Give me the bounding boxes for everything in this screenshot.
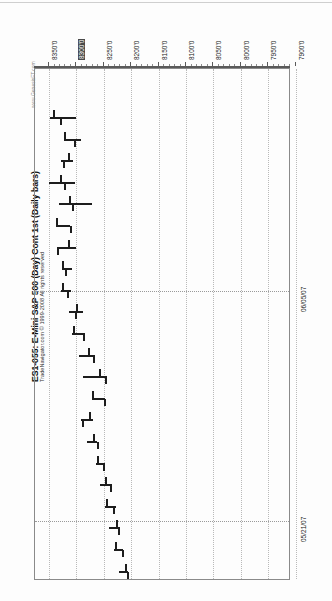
ohlc-close-tick	[113, 507, 115, 514]
ohlc-open-tick	[125, 564, 127, 571]
chart-plot-area[interactable]	[34, 68, 290, 580]
ohlc-close-tick	[83, 334, 85, 341]
time-axis-label: 06/05/07	[300, 287, 307, 312]
ohlc-open-tick	[116, 520, 118, 527]
price-gridline	[49, 69, 50, 579]
ohlc-bar	[119, 571, 128, 573]
price-minor-tick	[180, 64, 181, 66]
price-tick-label: 8200'0	[133, 41, 140, 60]
ohlc-open-tick	[106, 499, 108, 506]
ohlc-bar	[79, 355, 95, 357]
price-minor-tick	[174, 64, 175, 66]
ohlc-close-tick	[118, 528, 120, 535]
ohlc-close-tick	[72, 204, 74, 211]
price-gridline	[241, 69, 242, 579]
ohlc-open-tick	[97, 456, 99, 463]
ohlc-bar	[62, 268, 72, 270]
price-minor-tick	[97, 64, 98, 66]
ohlc-bar	[72, 333, 85, 335]
ohlc-open-tick	[88, 348, 90, 355]
ohlc-bar	[61, 290, 71, 292]
price-minor-tick	[136, 64, 137, 66]
price-tick	[212, 62, 213, 66]
price-minor-tick	[64, 64, 65, 66]
ohlc-close-tick	[63, 161, 65, 168]
ohlc-close-tick	[74, 140, 76, 147]
price-tick	[240, 62, 241, 66]
price-tick-label: 8100'0	[188, 41, 195, 60]
ohlc-open-tick	[62, 261, 64, 268]
ohlc-open-tick	[76, 304, 78, 311]
ohlc-close-tick	[110, 485, 112, 492]
ohlc-open-tick	[62, 283, 64, 290]
price-tick-label: 8350'0	[51, 41, 58, 60]
price-minor-tick	[54, 64, 55, 66]
ohlc-bar	[64, 139, 81, 141]
price-minor-tick	[86, 64, 87, 66]
price-gridline	[131, 69, 132, 579]
ohlc-open-tick	[69, 196, 71, 203]
ohlc-open-tick	[60, 175, 62, 182]
ohlc-close-tick	[103, 464, 105, 471]
price-minor-tick	[223, 64, 224, 66]
ohlc-close-tick	[75, 312, 77, 319]
ohlc-range-line	[59, 203, 92, 205]
price-tick	[75, 62, 76, 66]
ohlc-open-tick	[73, 326, 75, 333]
ohlc-open-tick	[53, 110, 55, 117]
ohlc-close-tick	[105, 377, 107, 384]
price-tick	[295, 62, 296, 66]
ohlc-close-tick	[93, 356, 95, 363]
price-minor-tick	[92, 64, 93, 66]
ohlc-bar	[50, 117, 77, 119]
price-minor-tick	[207, 64, 208, 66]
price-minor-tick	[201, 64, 202, 66]
ohlc-range-line	[64, 139, 81, 141]
ohlc-bar	[109, 527, 119, 529]
ohlc-open-tick	[105, 477, 107, 484]
price-tick-label: 8250'0	[106, 41, 113, 60]
ohlc-range-line	[56, 225, 70, 227]
price-minor-tick	[125, 64, 126, 66]
ohlc-close-tick	[65, 269, 67, 276]
time-gridline	[35, 521, 289, 522]
time-gridline	[35, 291, 289, 292]
ohlc-bar	[61, 160, 74, 162]
price-minor-tick	[191, 64, 192, 66]
price-minor-tick	[262, 64, 263, 66]
ohlc-bar	[59, 203, 92, 205]
price-minor-tick	[273, 64, 274, 66]
price-minor-tick	[229, 64, 230, 66]
price-gridline	[296, 69, 297, 579]
ohlc-close-tick	[122, 550, 124, 557]
ohlc-close-tick	[60, 118, 62, 125]
ohlc-range-line	[57, 247, 76, 249]
ohlc-bar	[57, 247, 76, 249]
ohlc-open-tick	[68, 240, 70, 247]
price-gridline	[76, 69, 77, 579]
ohlc-open-tick	[64, 132, 66, 139]
ohlc-bar	[100, 484, 112, 486]
ohlc-open-tick	[93, 434, 95, 441]
time-axis-label: 05/21/07	[300, 517, 307, 542]
ohlc-close-tick	[70, 226, 72, 233]
ohlc-open-tick	[68, 153, 70, 160]
ohlc-close-tick	[97, 442, 99, 449]
ohlc-close-tick	[82, 420, 84, 427]
ohlc-bar	[49, 182, 75, 184]
page-top-rule	[0, 2, 332, 3]
price-minor-tick	[218, 64, 219, 66]
price-gridline	[104, 69, 105, 579]
price-tick	[103, 62, 104, 66]
price-tick-label: 8300'0	[78, 39, 85, 60]
ohlc-open-tick	[99, 369, 101, 376]
ohlc-close-tick	[64, 183, 66, 190]
ohlc-bar	[81, 419, 93, 421]
price-tick-label: 8000'0	[243, 41, 250, 60]
price-minor-tick	[108, 64, 109, 66]
price-minor-tick	[169, 64, 170, 66]
ohlc-range-line	[49, 182, 75, 184]
ohlc-open-tick	[89, 412, 91, 419]
price-tick	[267, 62, 268, 66]
price-minor-tick	[289, 64, 290, 66]
